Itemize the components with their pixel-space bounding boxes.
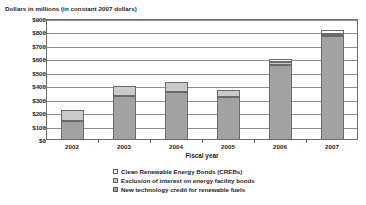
bar-segment	[165, 82, 188, 91]
bar-segment	[269, 59, 292, 62]
x-axis-tick-label: 2005	[221, 143, 235, 150]
chart-legend: Clean Renewable Energy Bonds (CREBs)Excl…	[113, 168, 255, 193]
gridline	[47, 128, 357, 129]
legend-item: Exclusion of interest on energy facility…	[113, 177, 255, 184]
y-axis-tick-mark	[43, 100, 46, 101]
legend-item-label: Clean Renewable Energy Bonds (CREBs)	[121, 168, 242, 175]
x-axis-tick-mark	[150, 140, 151, 143]
x-axis-tick-mark	[98, 140, 99, 143]
bar-segment	[165, 92, 188, 140]
chart-axis-title: Dollars in millions (in constant 2007 do…	[5, 5, 137, 12]
bar-segment	[61, 121, 84, 140]
y-axis-tick-mark	[43, 46, 46, 47]
gridline	[47, 20, 357, 21]
x-axis-label: Fiscal year	[46, 152, 358, 159]
legend-item-label: Exclusion of interest on energy facility…	[121, 177, 255, 184]
chart-figure: Dollars in millions (in constant 2007 do…	[0, 0, 366, 205]
x-axis-tick-mark	[306, 140, 307, 143]
x-axis-tick-label: 2006	[273, 143, 287, 150]
y-axis-tick-mark	[43, 59, 46, 60]
x-axis-tick-mark	[202, 140, 203, 143]
bar-segment	[269, 62, 292, 65]
y-axis-tick-mark	[43, 32, 46, 33]
bar-stack	[61, 19, 84, 140]
legend-swatch-icon	[113, 169, 118, 174]
gridline	[47, 74, 357, 75]
y-axis-tick-mark	[43, 73, 46, 74]
legend-swatch-icon	[113, 187, 118, 192]
gridline	[47, 33, 357, 34]
bar-stack	[321, 19, 344, 140]
bar-segment	[217, 97, 240, 140]
bar-segment	[113, 96, 136, 140]
legend-item: Clean Renewable Energy Bonds (CREBs)	[113, 168, 255, 175]
gridline	[47, 101, 357, 102]
legend-item-label: New technology credit for renewable fuel…	[121, 186, 245, 193]
gridline	[47, 87, 357, 88]
bar-stack	[165, 19, 188, 140]
y-axis-tick-mark	[43, 19, 46, 20]
x-axis-tick-label: 2004	[169, 143, 183, 150]
plot-area	[46, 19, 358, 140]
bar-segment	[61, 110, 84, 121]
x-axis-tick-mark	[254, 140, 255, 143]
bar-segment	[321, 34, 344, 37]
gridline	[47, 60, 357, 61]
y-axis-tick-mark	[43, 127, 46, 128]
x-axis-tick-label: 2007	[325, 143, 339, 150]
y-axis-tick-mark	[43, 86, 46, 87]
bar-stack	[113, 19, 136, 140]
bar-segment	[113, 86, 136, 95]
x-axis-tick-label: 2003	[117, 143, 131, 150]
bar-segment	[321, 30, 344, 33]
legend-swatch-icon	[113, 178, 118, 183]
bar-segment	[217, 90, 240, 97]
bar-segment	[269, 65, 292, 140]
gridline	[47, 47, 357, 48]
y-axis-tick-mark	[43, 113, 46, 114]
legend-item: New technology credit for renewable fuel…	[113, 186, 255, 193]
bar-stack	[217, 19, 240, 140]
y-axis-tick-mark	[43, 140, 46, 141]
bar-stack	[269, 19, 292, 140]
x-axis-tick-label: 2002	[65, 143, 79, 150]
bar-segment	[321, 36, 344, 140]
gridline	[47, 114, 357, 115]
